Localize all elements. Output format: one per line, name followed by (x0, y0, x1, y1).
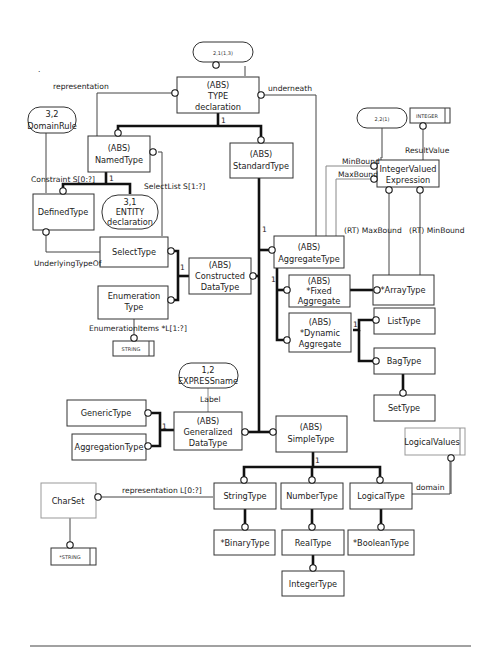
label-string-representation: representation L[0:?] (122, 486, 202, 495)
svg-text:RealType: RealType (295, 538, 331, 548)
entity-array-type[interactable]: *ArrayType (373, 275, 434, 305)
entity-generalized-data-type[interactable]: (ABS) Generalized DataType (174, 412, 242, 450)
svg-text:StandardType: StandardType (233, 161, 289, 171)
relation-circle (67, 542, 73, 548)
entity-constructed-data-type[interactable]: (ABS) Constructed DataType (189, 258, 251, 294)
stray-mark: . (38, 65, 40, 74)
svg-text:DefinedType: DefinedType (38, 207, 89, 217)
svg-text:EXPRESSname: EXPRESSname (178, 376, 238, 386)
entity-bag-type[interactable]: BagType (374, 348, 435, 374)
page-ref-domain-rule[interactable]: 3,2 DomainRule (27, 107, 77, 133)
page-ref-type-decl[interactable]: 2,1(1,3) (193, 42, 253, 62)
svg-text:IntegerType: IntegerType (289, 579, 337, 589)
label-underlying-type-of: UnderlyingTypeOf (34, 259, 102, 268)
subtype-circle (242, 524, 248, 530)
entity-dynamic-aggregate[interactable]: (ABS) *Dynamic Aggregate (289, 313, 351, 352)
entity-aggregate-type[interactable]: (ABS) AggregateType (274, 236, 344, 268)
page-ref-express-name[interactable]: 1,2 EXPRESSname (178, 363, 238, 388)
relation-circle (420, 123, 426, 129)
svg-text:ENTITY: ENTITY (116, 207, 146, 217)
subtype-circle (145, 410, 151, 416)
svg-text:(ABS): (ABS) (207, 80, 230, 90)
entity-char-set[interactable]: CharSet (41, 483, 96, 518)
svg-text:STRING: STRING (122, 346, 141, 352)
entity-fixed-aggregate[interactable]: (ABS) *Fixed Aggregate (289, 275, 350, 307)
svg-text:declaration: declaration (195, 102, 241, 112)
svg-text:*Fixed: *Fixed (306, 286, 331, 296)
simple-type-star-string[interactable]: *STRING (51, 548, 96, 565)
entity-integer-valued-expression[interactable]: IntegerValued Expression (377, 160, 439, 187)
entity-aggregation-type[interactable]: AggregationType (72, 434, 146, 460)
label-domain: domain (416, 483, 445, 492)
cardinality-one: 1 (109, 174, 114, 183)
entity-enumeration-type[interactable]: Enumeration Type (98, 286, 168, 319)
label-result-value: ResultValue (405, 146, 450, 155)
entity-defined-type[interactable]: DefinedType (33, 194, 94, 230)
relation-circle (258, 92, 264, 98)
entity-number-type[interactable]: NumberType (281, 483, 343, 509)
svg-text:INTEGER: INTEGER (416, 113, 438, 119)
svg-text:TYPE: TYPE (207, 91, 228, 101)
entity-select-type[interactable]: SelectType (100, 237, 168, 267)
subtype-circle (270, 429, 276, 435)
svg-text:DomainRule: DomainRule (27, 121, 77, 131)
svg-text:3,1: 3,1 (123, 197, 136, 207)
svg-text:AggregationType: AggregationType (75, 442, 144, 452)
svg-text:Enumeration: Enumeration (108, 291, 161, 301)
subtype-tree (359, 330, 376, 361)
relation-circle (386, 187, 392, 193)
entity-boolean-type[interactable]: *BooleanType (348, 530, 414, 555)
svg-text:SimpleType: SimpleType (288, 434, 335, 444)
relation-circle (150, 149, 156, 155)
simple-type-integer[interactable]: INTEGER (410, 108, 450, 123)
subtype-circle (378, 524, 384, 530)
simple-type-logical-values[interactable]: LogicalValues (404, 428, 465, 455)
entity-standard-type[interactable]: (ABS) StandardType (230, 143, 293, 178)
page-ref-integer-expression[interactable]: 2,2(1) (357, 108, 407, 128)
entity-named-type[interactable]: (ABS) NamedType (88, 136, 150, 172)
svg-text:LogicalValues: LogicalValues (404, 437, 459, 447)
subtype-circle (168, 248, 174, 254)
entity-real-type[interactable]: RealType (282, 530, 344, 555)
label-constraint: Constraint S[0:?] (31, 175, 95, 184)
entity-string-type[interactable]: StringType (214, 483, 276, 509)
entity-list-type[interactable]: ListType (374, 308, 435, 334)
svg-text:Constructed: Constructed (195, 271, 245, 281)
entity-set-type[interactable]: SetType (374, 395, 435, 421)
relation-circle (131, 335, 137, 341)
svg-text:(ABS): (ABS) (298, 242, 321, 252)
label-select-list: SelectList S[1:?] (144, 182, 205, 191)
svg-text:(ABS): (ABS) (209, 260, 232, 270)
subtype-circle (284, 337, 290, 343)
subtype-circle (309, 524, 315, 530)
simple-type-string[interactable]: STRING (113, 341, 154, 356)
subtype-circle (310, 565, 316, 571)
representation-line (97, 93, 175, 136)
subtype-circle (400, 390, 406, 396)
svg-text:1,2: 1,2 (201, 365, 214, 375)
svg-text:ListType: ListType (387, 316, 420, 326)
subtype-circle (168, 297, 174, 303)
svg-text:(ABS): (ABS) (108, 143, 131, 153)
entity-integer-type[interactable]: IntegerType (282, 571, 344, 596)
underlying-type-line (46, 230, 100, 252)
svg-text:(ABS): (ABS) (308, 276, 331, 286)
cardinality-one: 1 (262, 225, 267, 234)
subtype-circle (269, 247, 275, 253)
svg-text:Aggregate: Aggregate (298, 296, 341, 306)
entity-type-declaration[interactable]: (ABS) TYPE declaration (177, 77, 259, 113)
svg-text:(ABS): (ABS) (250, 149, 273, 159)
ref-circle (213, 62, 219, 68)
page-ref-entity-declaration[interactable]: 3,1 ENTITY declaration (102, 195, 158, 229)
entity-binary-type[interactable]: *BinaryType (214, 530, 275, 555)
label-representation: representation (53, 82, 109, 91)
cardinality-one: 1 (271, 275, 276, 284)
svg-text:DataType: DataType (201, 282, 239, 292)
svg-text:AggregateType: AggregateType (278, 254, 339, 264)
entity-simple-type[interactable]: (ABS) SimpleType (276, 416, 347, 452)
svg-text:*BooleanType: *BooleanType (353, 538, 409, 548)
svg-text:Aggregate: Aggregate (299, 339, 342, 349)
entity-logical-type[interactable]: LogicalType (350, 483, 412, 509)
svg-text:GenericType: GenericType (81, 408, 132, 418)
entity-generic-type[interactable]: GenericType (67, 400, 146, 426)
